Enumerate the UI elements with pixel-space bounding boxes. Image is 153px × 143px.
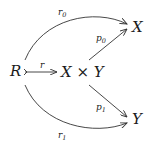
morphism-p1: p1	[89, 85, 127, 117]
label-r1: r1	[58, 130, 66, 142]
label-r: r	[40, 60, 45, 70]
object-Y: Y	[132, 110, 144, 128]
label-r0: r0	[58, 7, 66, 19]
object-X: X	[131, 18, 144, 36]
morphism-r0: r0	[25, 7, 127, 60]
object-R: R	[9, 62, 21, 80]
arrow-p0	[89, 29, 127, 60]
label-p1: p1	[96, 102, 106, 114]
morphism-r: r	[24, 60, 57, 75]
object-product-XY: X × Y	[60, 63, 106, 81]
commutative-diagram: R X × Y X Y r p0 p1 r0 r1	[0, 0, 153, 143]
arrow-p1	[89, 85, 127, 117]
arrow-r0	[25, 17, 127, 60]
arrow-r1	[25, 85, 127, 128]
morphism-r1: r1	[25, 85, 127, 142]
label-p0: p0	[96, 33, 106, 45]
morphism-p0: p0	[89, 29, 127, 60]
